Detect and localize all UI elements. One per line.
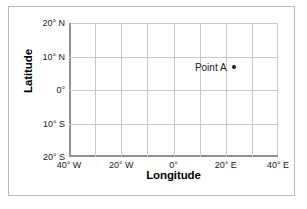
y-axis-title: Latitude <box>20 21 36 121</box>
gridline-horizontal <box>69 57 278 58</box>
gridline-horizontal <box>69 124 278 125</box>
data-point-marker <box>232 65 236 69</box>
gridline-horizontal <box>69 90 278 91</box>
plot-area: 20° N10° N0°10° S20° S40° W20° W0°20° E4… <box>69 23 278 157</box>
x-axis-title: Longitude <box>69 169 278 181</box>
y-axis-tick-label: 10° N <box>42 52 65 62</box>
data-point-label: Point A <box>195 61 227 72</box>
y-axis-tick-label: 10° S <box>43 119 65 129</box>
figure-frame: Latitude 20° N10° N0°10° S20° S40° W20° … <box>8 6 295 196</box>
y-axis-tick-label: 0° <box>56 85 65 95</box>
y-axis-tick-label: 20° N <box>42 18 65 28</box>
